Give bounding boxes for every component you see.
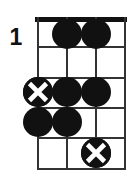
nut-bar xyxy=(35,17,127,22)
finger-dot-marker xyxy=(23,107,53,137)
fret-line-5 xyxy=(37,168,125,170)
fretboard-grid xyxy=(37,17,125,170)
finger-dot-marker xyxy=(81,77,111,107)
fret-line-1 xyxy=(37,46,125,48)
chord-diagram: 1 xyxy=(0,0,139,178)
finger-dot-marker xyxy=(81,19,111,49)
finger-dot-marker xyxy=(52,107,82,137)
string-line-4 xyxy=(124,17,126,170)
finger-dot-marker xyxy=(52,77,82,107)
finger-dot-marker xyxy=(52,19,82,49)
root-note-marker xyxy=(81,138,111,168)
fret-line-3 xyxy=(37,107,125,109)
root-note-marker xyxy=(23,77,53,107)
starting-fret-label: 1 xyxy=(4,24,28,50)
